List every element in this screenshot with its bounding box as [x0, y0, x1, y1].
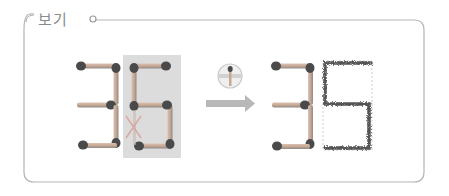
arrow-right-icon: [206, 95, 255, 112]
panel-title: 보기: [34, 8, 72, 29]
panel-frame: [0, 0, 449, 196]
example-panel: 보기: [0, 0, 449, 196]
digit-5-after: [323, 61, 372, 150]
digit-3-after: [271, 62, 315, 151]
move-one-match-icon: [218, 64, 242, 88]
digit-3-before: [76, 62, 121, 150]
